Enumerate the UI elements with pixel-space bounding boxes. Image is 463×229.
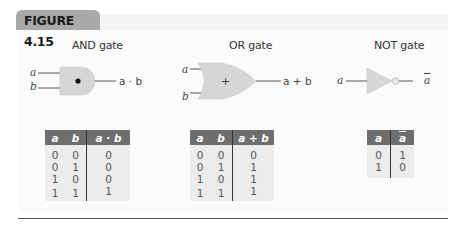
not-input-a-label: a [337,74,343,86]
or-header-b: b [210,130,233,145]
and-truth-table: a b a · b 000 010 100 111 [45,130,130,201]
or-truth-table: a b a + b 000 011 101 111 [190,130,274,201]
or-output-label: a + b [283,75,312,87]
table-row: 111 [45,185,130,201]
not-header-a: a [367,130,391,145]
or-input-a-label: a [182,63,188,75]
table-row: 011 [190,161,274,173]
and-gate-title: AND gate [72,39,123,52]
and-output-label: a · b [119,75,142,87]
table-row: 000 [45,145,130,161]
not-truth-table: a a 01 10 [367,130,414,178]
bottom-divider [18,218,448,219]
table-row: 01 [367,145,414,161]
table-row: 000 [190,145,274,161]
figure-label: FIGURE 4.15 [16,10,100,30]
and-header-a: a [45,130,65,145]
table-row: 101 [190,173,274,185]
or-header-output: a + b [233,130,275,145]
svg-text:+: + [221,75,230,88]
or-gate-title: OR gate [229,39,272,52]
and-gate-icon [38,66,128,96]
and-header-output: a · b [87,130,131,145]
table-row: 010 [45,161,130,173]
or-header-a: a [190,130,210,145]
table-row: 111 [190,185,274,201]
table-row: 100 [45,173,130,185]
and-input-a-label: a [30,66,36,78]
not-gate-icon [346,67,446,97]
not-output-label: a [424,74,430,86]
and-header-b: b [65,130,87,145]
table-row: 10 [367,161,414,178]
or-input-b-label: b [182,90,189,102]
not-header-output: a [391,130,415,145]
figure-header-strip [100,14,448,30]
and-input-b-label: b [30,80,37,92]
not-gate-title: NOT gate [374,39,424,52]
